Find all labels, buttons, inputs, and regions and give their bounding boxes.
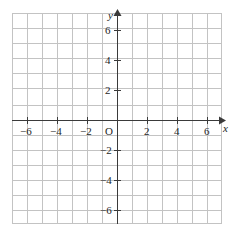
y-tick-label-neg4: −4 xyxy=(100,175,112,186)
y-axis-arrowhead xyxy=(114,9,122,16)
coordinate-plane-svg xyxy=(0,0,233,237)
x-tick-label-neg2: −2 xyxy=(80,126,92,137)
y-tick-label-2: 2 xyxy=(105,85,111,96)
y-tick-label-4: 4 xyxy=(105,55,111,66)
y-tick-label-neg6: −6 xyxy=(100,205,112,216)
y-tick-label-6: 6 xyxy=(105,25,111,36)
y-axis xyxy=(114,9,122,224)
y-axis-label: y xyxy=(108,10,113,21)
coordinate-grid-figure: −6 −4 −2 2 4 6 6 4 2 −2 −4 −6 O x y xyxy=(0,0,233,237)
y-tick-label-neg2: −2 xyxy=(100,145,112,156)
x-tick-label-6: 6 xyxy=(204,126,210,137)
x-tick-label-4: 4 xyxy=(174,126,180,137)
origin-label: O xyxy=(105,126,113,137)
x-tick-label-neg6: −6 xyxy=(20,126,32,137)
x-axis-label: x xyxy=(223,123,228,134)
x-tick-label-2: 2 xyxy=(144,126,150,137)
x-tick-label-neg4: −4 xyxy=(50,126,62,137)
x-axis xyxy=(12,117,226,125)
